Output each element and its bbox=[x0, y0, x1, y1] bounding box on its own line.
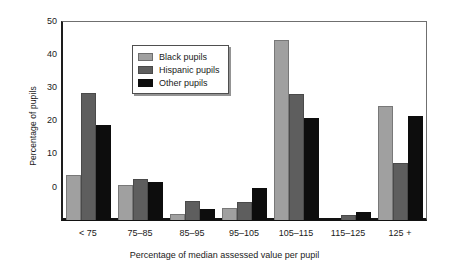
legend-swatch-black-pupils bbox=[138, 53, 153, 61]
bar bbox=[393, 163, 408, 220]
bar bbox=[304, 118, 319, 220]
chart-legend: Black pupils Hispanic pupils Other pupil… bbox=[132, 45, 229, 94]
y-tick-label-20: 20 bbox=[31, 116, 57, 125]
x-tick-label: 105–115 bbox=[270, 228, 322, 238]
bar bbox=[148, 182, 163, 220]
x-tick-label: 125 + bbox=[374, 228, 426, 238]
legend-swatch-hispanic-pupils bbox=[138, 66, 153, 74]
y-tick-label-40: 40 bbox=[31, 50, 57, 59]
bar bbox=[66, 175, 81, 220]
bar bbox=[356, 212, 371, 220]
x-axis-tick-labels: < 7575–8585–9595–105105–115115–125125 + bbox=[62, 228, 426, 238]
x-tick-label: 85–95 bbox=[166, 228, 218, 238]
y-tick-label-50: 50 bbox=[31, 17, 57, 26]
bar-group bbox=[62, 21, 114, 220]
bar-group bbox=[374, 21, 426, 220]
x-tick-label: 75–85 bbox=[114, 228, 166, 238]
bar bbox=[170, 214, 185, 220]
bar bbox=[274, 40, 289, 220]
x-tick-label: 115–125 bbox=[322, 228, 374, 238]
bar-group bbox=[322, 21, 374, 220]
bar bbox=[118, 185, 133, 220]
bar bbox=[222, 208, 237, 220]
legend-label-black-pupils: Black pupils bbox=[159, 52, 207, 62]
legend-item-other-pupils: Other pupils bbox=[138, 76, 220, 89]
bar bbox=[96, 125, 111, 220]
legend-item-hispanic-pupils: Hispanic pupils bbox=[138, 63, 220, 76]
x-tick-label: 95–105 bbox=[218, 228, 270, 238]
legend-item-black-pupils: Black pupils bbox=[138, 50, 220, 63]
legend-label-other-pupils: Other pupils bbox=[159, 78, 208, 88]
y-tick-label-30: 30 bbox=[31, 83, 57, 92]
bar-chart-figure: Percentage of pupils 50 40 30 20 10 0 Bl… bbox=[0, 0, 449, 279]
x-tick-label: < 75 bbox=[62, 228, 114, 238]
bar bbox=[408, 116, 423, 220]
legend-label-hispanic-pupils: Hispanic pupils bbox=[159, 65, 220, 75]
y-tick-label-0: 0 bbox=[31, 183, 57, 192]
bar-group bbox=[270, 21, 322, 220]
bar bbox=[378, 106, 393, 220]
legend-swatch-other-pupils bbox=[138, 79, 153, 87]
bar bbox=[252, 188, 267, 220]
bar-groups bbox=[62, 21, 426, 220]
bar bbox=[341, 215, 356, 220]
x-axis-title: Percentage of median assessed value per … bbox=[0, 250, 449, 260]
bar bbox=[81, 93, 96, 220]
bar bbox=[237, 202, 252, 220]
y-tick-label-10: 10 bbox=[31, 149, 57, 158]
bar bbox=[289, 94, 304, 220]
bar bbox=[185, 201, 200, 220]
bar bbox=[200, 209, 215, 220]
bar bbox=[133, 179, 148, 220]
